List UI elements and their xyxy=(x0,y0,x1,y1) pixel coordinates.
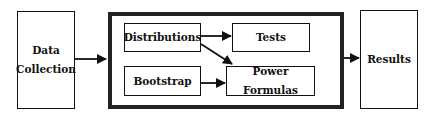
results-label: Results xyxy=(367,50,411,69)
bootstrap-box: Bootstrap xyxy=(124,66,201,96)
data-collection-label-line1: Data xyxy=(32,41,60,60)
distributions-box: Distributions xyxy=(124,23,201,52)
power-formulas-box: Power Formulas xyxy=(226,66,315,96)
bootstrap-label: Bootstrap xyxy=(133,72,191,91)
results-box: Results xyxy=(360,10,418,109)
data-collection-label-line2: Collection xyxy=(16,60,76,79)
distributions-label: Distributions xyxy=(124,28,202,47)
tests-box: Tests xyxy=(232,23,310,52)
power-formulas-label: Power Formulas xyxy=(227,62,314,100)
tests-label: Tests xyxy=(256,28,286,47)
data-collection-box: Data Collection xyxy=(17,11,75,109)
